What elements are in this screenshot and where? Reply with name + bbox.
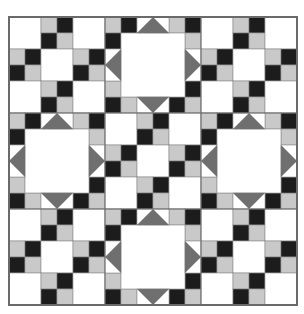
quilt-pattern xyxy=(9,17,297,305)
quilt-svg xyxy=(9,17,297,305)
